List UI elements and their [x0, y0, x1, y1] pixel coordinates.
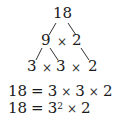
root-node: 18 [53, 6, 72, 21]
times-sign: × [71, 61, 81, 76]
branch-9-to-3a [36, 48, 42, 60]
equation-exponent: 18=32×2 [8, 101, 95, 117]
equation-product: 18=3×3×2 [8, 84, 116, 100]
node-9: 9 [41, 33, 51, 48]
times-sign: × [42, 61, 52, 76]
node-3a: 3 [27, 59, 37, 74]
node-2: 2 [72, 33, 82, 48]
node-3b: 3 [56, 59, 66, 74]
node-2b: 2 [88, 59, 98, 74]
exponent: 2 [57, 101, 63, 111]
times-sign: × [57, 35, 67, 50]
